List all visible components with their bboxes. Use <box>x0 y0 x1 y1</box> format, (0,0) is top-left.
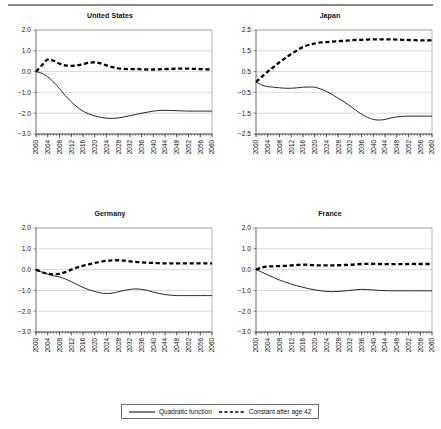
x-tick-label: 2060 <box>428 140 435 155</box>
x-tick-label: 2016 <box>79 338 86 353</box>
legend-label-quadratic-function: Quadratic function <box>159 408 212 415</box>
x-tick-label: 2016 <box>299 140 306 155</box>
y-tick-label: −0.5 <box>238 89 251 96</box>
chart-panel-united-states: United States 2.01.00.0−1.0−2.0−3.020002… <box>0 8 220 204</box>
chart-panel-france: France 2.01.00.0−1.0−2.0−3.0200020042008… <box>220 206 440 402</box>
panel-title-united-states: United States <box>0 12 220 19</box>
x-tick-label: 2000 <box>32 140 39 155</box>
legend-entry-quadratic-function: Quadratic function <box>129 408 212 415</box>
y-tick-label: 1.0 <box>22 245 31 252</box>
x-tick-label: 2020 <box>91 140 98 155</box>
panel-title-germany: Germany <box>0 210 220 217</box>
panel-grid: United States 2.01.00.0−1.0−2.0−3.020002… <box>0 8 441 393</box>
chart-panel-germany: Germany 2.01.00.0−1.0−2.0−3.020002004200… <box>0 206 220 402</box>
legend-swatch-solid-line <box>129 409 155 415</box>
top-divider-rule <box>8 4 433 6</box>
y-tick-label: −2.5 <box>238 130 251 137</box>
panel-title-japan: Japan <box>220 12 440 19</box>
y-tick-label: 2.0 <box>22 224 31 231</box>
series-line-quadratic-function <box>36 72 212 119</box>
x-tick-label: 2040 <box>370 140 377 155</box>
series-line-constant-after-age-42 <box>36 59 212 71</box>
plot-area-germany: 2.01.00.0−1.0−2.0−3.02000200420082012201… <box>0 222 220 398</box>
legend-entry-constant-after-age-42: Constant after age 42 <box>219 408 312 415</box>
y-tick-label: −1.0 <box>18 287 31 294</box>
x-tick-label: 2024 <box>323 140 330 155</box>
x-tick-label: 2060 <box>208 140 215 155</box>
x-tick-label: 2020 <box>311 338 318 353</box>
y-tick-label: −3.0 <box>18 328 31 335</box>
x-tick-label: 2056 <box>417 140 424 155</box>
x-tick-label: 2024 <box>323 338 330 353</box>
x-tick-label: 2008 <box>56 338 63 353</box>
x-tick-label: 2060 <box>208 338 215 353</box>
x-tick-label: 2016 <box>299 338 306 353</box>
x-tick-label: 2000 <box>252 338 259 353</box>
x-tick-label: 2048 <box>173 140 180 155</box>
x-tick-label: 2016 <box>79 140 86 155</box>
y-tick-label: −1.5 <box>238 110 251 117</box>
y-tick-label: 2.0 <box>242 224 251 231</box>
x-tick-label: 2044 <box>161 338 168 353</box>
y-tick-label: 0.5 <box>242 68 251 75</box>
x-tick-label: 2052 <box>405 140 412 155</box>
x-tick-label: 2004 <box>264 140 271 155</box>
series-line-constant-after-age-42 <box>256 39 432 82</box>
x-tick-label: 2032 <box>126 338 133 353</box>
y-tick-label: 1.5 <box>242 47 251 54</box>
chart-legend: Quadratic function Constant after age 42 <box>121 404 319 419</box>
x-tick-label: 2012 <box>68 140 75 155</box>
series-line-quadratic-function <box>256 270 432 292</box>
x-tick-label: 2032 <box>346 338 353 353</box>
x-tick-label: 2008 <box>276 338 283 353</box>
series-line-constant-after-age-42 <box>256 264 432 270</box>
chart-panel-japan: Japan 2.51.50.5−0.5−1.5−2.52000200420082… <box>220 8 440 204</box>
y-tick-label: 1.0 <box>242 245 251 252</box>
x-tick-label: 2028 <box>115 338 122 353</box>
x-tick-label: 2036 <box>358 338 365 353</box>
y-tick-label: 2.5 <box>242 26 251 33</box>
x-tick-label: 2044 <box>161 140 168 155</box>
x-tick-label: 2000 <box>252 140 259 155</box>
series-line-quadratic-function <box>256 82 432 120</box>
series-line-constant-after-age-42 <box>36 260 212 274</box>
y-tick-label: −1.0 <box>238 287 251 294</box>
x-tick-label: 2004 <box>44 338 51 353</box>
x-tick-label: 2032 <box>346 140 353 155</box>
y-tick-label: −2.0 <box>238 308 251 315</box>
x-tick-label: 2040 <box>370 338 377 353</box>
x-tick-label: 2024 <box>103 140 110 155</box>
x-tick-label: 2048 <box>393 140 400 155</box>
x-tick-label: 2028 <box>335 338 342 353</box>
x-tick-label: 2012 <box>288 140 295 155</box>
x-tick-label: 2028 <box>335 140 342 155</box>
x-tick-label: 2056 <box>197 338 204 353</box>
x-tick-label: 2048 <box>173 338 180 353</box>
y-tick-label: −2.0 <box>18 110 31 117</box>
x-tick-label: 2020 <box>311 140 318 155</box>
y-tick-label: −2.0 <box>18 308 31 315</box>
x-tick-label: 2036 <box>138 338 145 353</box>
y-tick-label: −1.0 <box>18 89 31 96</box>
x-tick-label: 2044 <box>381 140 388 155</box>
x-tick-label: 2024 <box>103 338 110 353</box>
legend-swatch-dashed-line <box>219 409 245 415</box>
y-tick-label: −3.0 <box>238 328 251 335</box>
x-tick-label: 2052 <box>185 140 192 155</box>
y-tick-label: −3.0 <box>18 130 31 137</box>
x-tick-label: 2040 <box>150 338 157 353</box>
x-tick-label: 2056 <box>417 338 424 353</box>
x-tick-label: 2008 <box>276 140 283 155</box>
x-tick-label: 2004 <box>264 338 271 353</box>
y-tick-label: 0.0 <box>242 266 251 273</box>
y-tick-label: 1.0 <box>22 47 31 54</box>
x-tick-label: 2004 <box>44 140 51 155</box>
plot-area-japan: 2.51.50.5−0.5−1.5−2.52000200420082012201… <box>220 24 440 200</box>
x-tick-label: 2052 <box>405 338 412 353</box>
y-tick-label: 2.0 <box>22 26 31 33</box>
x-tick-label: 2032 <box>126 140 133 155</box>
x-tick-label: 2028 <box>115 140 122 155</box>
plot-area-france: 2.01.00.0−1.0−2.0−3.02000200420082012201… <box>220 222 440 398</box>
x-tick-label: 2044 <box>381 338 388 353</box>
legend-label-constant-after-age-42: Constant after age 42 <box>249 408 312 415</box>
